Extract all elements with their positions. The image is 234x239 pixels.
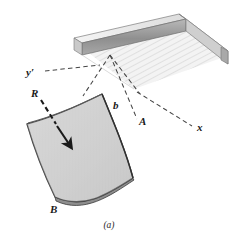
y-axis-line: [45, 65, 100, 71]
tank-reservoir: [74, 14, 228, 92]
mechanics-diagram: y′ x R b A B (a): [0, 0, 234, 239]
figure-caption: (a): [103, 220, 114, 231]
label-resultant-r: R: [30, 87, 38, 99]
label-width-b: b: [113, 99, 119, 111]
label-point-b: B: [49, 203, 57, 215]
tank-wall-right-outer: [221, 47, 228, 64]
label-point-a: A: [138, 115, 146, 127]
label-y-axis: y′: [24, 66, 34, 78]
figure-container: y′ x R b A B (a): [0, 0, 234, 239]
label-x-axis: x: [196, 121, 203, 133]
